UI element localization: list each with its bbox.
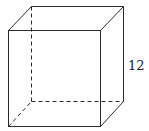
bottom-right-connector <box>101 102 124 127</box>
front-face <box>9 31 101 127</box>
cube-diagram <box>0 0 149 131</box>
edge-length-label: 12 <box>128 58 145 73</box>
top-right-connector <box>101 7 124 31</box>
hidden-bottom-left-connector <box>9 102 32 127</box>
top-left-connector <box>9 7 32 31</box>
